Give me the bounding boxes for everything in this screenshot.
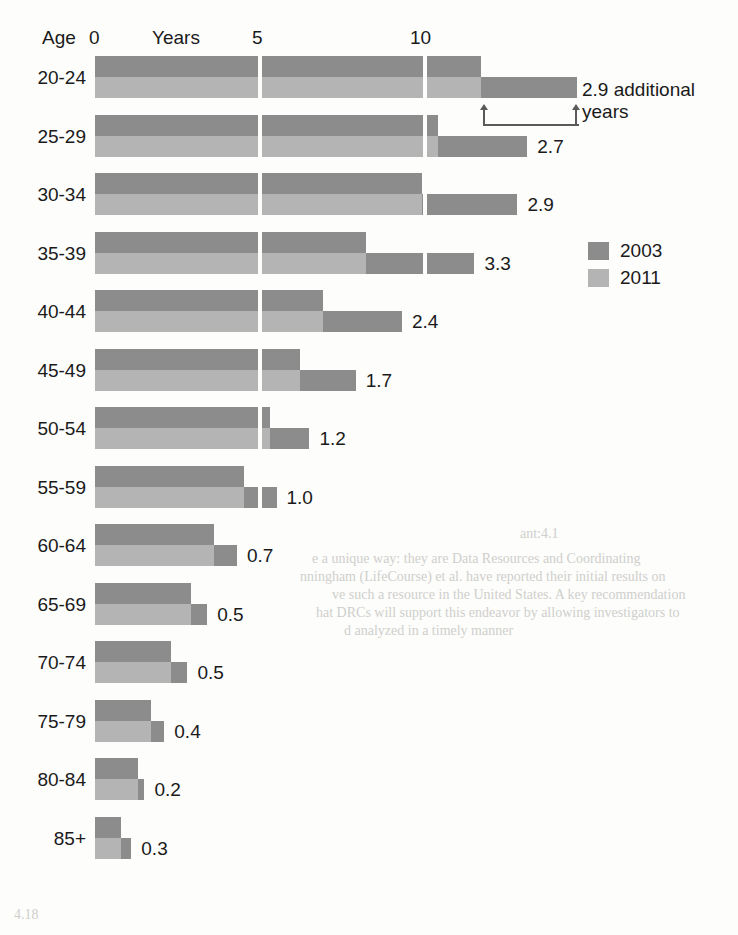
- data-value-label: 1.0: [287, 488, 313, 507]
- data-value-label: 2.4: [412, 312, 438, 331]
- bar-2003: [95, 115, 438, 136]
- data-value-label: 2.7: [537, 137, 563, 156]
- bar-2011: [95, 136, 438, 157]
- data-value-label: 2.9: [527, 195, 553, 214]
- arrow-up-left-icon: [480, 104, 488, 110]
- data-value-label: 0.4: [174, 722, 200, 741]
- bar-2011: [95, 428, 270, 449]
- bar-group-row: 55-591.0: [0, 466, 738, 510]
- x-axis-header: Age 0 Years 5 10: [0, 27, 738, 51]
- bar-2003: [95, 758, 138, 779]
- bars-container: 1.2: [95, 407, 735, 449]
- age-group-label: 35-39: [0, 244, 86, 263]
- bar-additional-years: [151, 721, 164, 742]
- bars-container: 0.3: [95, 817, 735, 859]
- bars-container: 0.7: [95, 524, 735, 566]
- gridline: [258, 232, 262, 274]
- data-value-label: 0.5: [217, 605, 243, 624]
- bar-2011: [95, 838, 121, 859]
- bar-2011: [95, 370, 300, 391]
- bar-additional-years: [214, 545, 237, 566]
- axis-age-label: Age: [42, 28, 76, 47]
- bracket-bar: [483, 124, 579, 126]
- bar-2003: [95, 407, 270, 428]
- bar-2003: [95, 232, 366, 253]
- bar-group-row: 45-491.7: [0, 349, 738, 393]
- axis-tick-0: 0: [89, 28, 100, 47]
- bar-additional-years: [366, 253, 475, 274]
- bar-group-row: 85+0.3: [0, 817, 738, 861]
- bar-2011: [95, 721, 151, 742]
- bar-2003: [95, 466, 244, 487]
- age-group-label: 65-69: [0, 595, 86, 614]
- age-group-label: 70-74: [0, 653, 86, 672]
- bar-2003: [95, 290, 323, 311]
- age-group-label: 50-54: [0, 419, 86, 438]
- bar-2003: [95, 817, 121, 838]
- gridline: [258, 115, 262, 157]
- gridline: [423, 232, 427, 274]
- bar-group-row: 75-790.4: [0, 700, 738, 744]
- bar-2003: [95, 641, 171, 662]
- age-group-label: 40-44: [0, 302, 86, 321]
- data-value-label: 1.7: [366, 371, 392, 390]
- bar-additional-years: [323, 311, 402, 332]
- bars-container: 2.7: [95, 115, 735, 157]
- gridline: [423, 115, 427, 157]
- age-group-label: 30-34: [0, 185, 86, 204]
- axis-unit-label: Years: [152, 28, 200, 47]
- bar-2011: [95, 545, 214, 566]
- axis-tick-10: 10: [410, 28, 431, 47]
- bar-additional-years: [138, 779, 145, 800]
- bar-group-row: 30-342.9: [0, 173, 738, 217]
- axis-tick-5: 5: [252, 28, 263, 47]
- gridline: [423, 56, 427, 98]
- legend-label: 2003: [620, 240, 662, 261]
- age-group-label: 60-64: [0, 536, 86, 555]
- bar-group-row: 70-740.5: [0, 641, 738, 685]
- data-value-label: 0.7: [247, 546, 273, 565]
- life-expectancy-bar-chart: ant:4.1 e a unique way: they are Data Re…: [0, 0, 738, 935]
- bar-additional-years: [270, 428, 310, 449]
- callout-label-line1: 2.9 additional: [582, 79, 695, 101]
- legend-label: 2011: [620, 267, 661, 288]
- bars-container: 0.5: [95, 641, 735, 683]
- bracket-stem-right: [575, 109, 577, 126]
- callout-bracket: [481, 104, 581, 126]
- bar-additional-years: [438, 136, 527, 157]
- bar-2011: [95, 487, 244, 508]
- age-group-label: 25-29: [0, 127, 86, 146]
- age-group-label: 55-59: [0, 478, 86, 497]
- gridline: [258, 173, 262, 215]
- bar-2011: [95, 779, 138, 800]
- gridline: [258, 466, 262, 508]
- data-value-label: 0.5: [197, 663, 223, 682]
- bars-container: 0.4: [95, 700, 735, 742]
- age-group-label: 45-49: [0, 361, 86, 380]
- bar-2011: [95, 662, 171, 683]
- callout-label-line2: years: [582, 101, 628, 123]
- data-value-label: 1.2: [320, 429, 346, 448]
- bar-group-row: 65-690.5: [0, 583, 738, 627]
- data-value-label: 3.3: [485, 254, 511, 273]
- bars-container: 0.5: [95, 583, 735, 625]
- bars-container: 1.7: [95, 349, 735, 391]
- gridline: [258, 290, 262, 332]
- bars-container: 2.9: [95, 173, 735, 215]
- age-group-label: 20-24: [0, 68, 86, 87]
- gridline: [258, 407, 262, 449]
- bar-additional-years: [300, 370, 356, 391]
- bar-2011: [95, 604, 191, 625]
- legend-swatch: [588, 242, 609, 260]
- bar-additional-years: [422, 194, 518, 215]
- bars-container: 2.4: [95, 290, 735, 332]
- data-value-label: 0.3: [141, 839, 167, 858]
- bar-2003: [95, 349, 300, 370]
- gridline: [258, 349, 262, 391]
- age-group-label: 85+: [0, 829, 86, 848]
- bar-2011: [95, 311, 323, 332]
- bar-additional-years: [171, 662, 188, 683]
- age-group-label: 80-84: [0, 770, 86, 789]
- legend-swatch: [588, 269, 609, 287]
- bars-container: 0.2: [95, 758, 735, 800]
